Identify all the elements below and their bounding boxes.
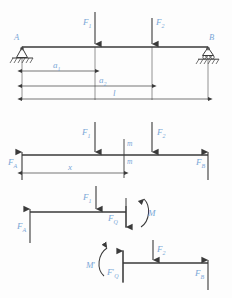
dimension-label-x: x — [68, 163, 72, 172]
figure-canvas: A B F1 F2 a1 a2 l FA FB F1 F2 m m x FA F… — [0, 0, 232, 298]
support-label-b: B — [209, 33, 214, 42]
dimension-label-a2: a2 — [99, 76, 107, 87]
load-label-f1-diagram2: F1 — [82, 128, 91, 139]
reaction-label-fa-diagram3: FA — [17, 222, 26, 233]
diagram-vector-layer — [0, 0, 232, 298]
load-label-f2-diagram2: F2 — [157, 128, 166, 139]
shear-label-fq-prime-diagram4: F′Q — [107, 268, 119, 279]
section-label-m-top: m — [127, 140, 132, 148]
load-label-f2-diagram4: F2 — [157, 245, 166, 256]
dimension-label-l: l — [113, 89, 116, 98]
reaction-label-fb-diagram4: FB — [195, 269, 204, 280]
reaction-label-fb-diagram2: FB — [196, 158, 205, 169]
dimension-label-a1: a1 — [53, 61, 61, 72]
support-label-a: A — [14, 33, 19, 42]
section-label-m-bottom: m — [127, 158, 132, 166]
load-label-f2-diagram1: F2 — [156, 18, 165, 29]
diagram1-group — [10, 12, 219, 100]
moment-label-m-prime-diagram4: M′ — [86, 261, 95, 270]
load-label-f1-diagram1: F1 — [83, 18, 92, 29]
diagram2-group — [22, 122, 208, 180]
reaction-label-fa-diagram2: FA — [8, 158, 17, 169]
load-label-f1-diagram3: F1 — [83, 193, 92, 204]
diagram4-group — [99, 240, 208, 290]
moment-label-m-diagram3: M — [148, 209, 156, 218]
shear-label-fq-diagram3: FQ — [108, 214, 118, 225]
